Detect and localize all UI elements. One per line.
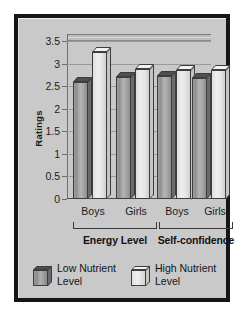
bar-selfconfidence-boys-low [157,71,172,199]
legend-item-high-nutrient: High Nutrient Level [131,262,229,294]
bar-energy-girls-high [135,64,150,199]
bracket-energy-level [73,222,157,229]
bar-front-face [135,69,150,199]
bar-front-face [92,52,107,199]
ytick-label-2: 2 [54,103,60,115]
bar-selfconfidence-girls-high [211,65,226,199]
y-axis-title: Ratings [33,94,44,164]
bar-front-face [157,76,172,199]
ytick-2 [62,109,67,110]
bar-side-face [150,64,154,199]
ytick-2.5 [62,86,67,87]
plot-left-wall-3d [67,34,68,199]
ytick-0 [62,199,67,200]
legend-item-low-nutrient: Low Nutrient Level [33,262,129,294]
bar-front-face [73,82,88,199]
xlabel-selfconfidence-boys: Boys [165,205,188,217]
legend-label-high-nutrient: High Nutrient Level [155,262,216,287]
cube-front-face [131,270,146,286]
ytick-label-0: 0 [54,193,60,205]
bar-side-face [226,65,230,199]
ytick-label-1.5: 1.5 [45,125,60,137]
ytick-label-0.5: 0.5 [45,170,60,182]
ytick-label-1: 1 [54,148,60,160]
light-cube-icon [131,266,148,283]
xlabel-selfconfidence-girls: Girls [204,205,226,217]
bar-energy-boys-high [92,47,107,199]
legend-label-high-line1: High Nutrient [155,262,216,275]
chart-legend: Low Nutrient Level High Nutrient Level [27,262,227,296]
ytick-1.5 [62,131,67,132]
bar-front-face [176,70,191,200]
ytick-label-2.5: 2.5 [45,80,60,92]
chart-frame: Ratings 3.5 3 2.5 [14,14,230,302]
ytick-3.5 [62,41,67,42]
gridline-3.5 [67,41,211,42]
bar-energy-boys-low [73,77,88,199]
legend-label-low-line1: Low Nutrient [57,262,116,275]
grouplabel-self-confidence: Self-confidence [158,234,235,246]
cube-front-face [33,270,48,286]
bracket-self-confidence [159,222,233,229]
legend-label-low-line2: Level [57,275,116,288]
legend-label-low-nutrient: Low Nutrient Level [57,262,116,287]
ytick-label-3: 3 [54,58,60,70]
cube-side-face [146,266,150,286]
bar-energy-girls-low [116,72,131,199]
legend-label-high-line2: Level [155,275,216,288]
plot-top-face-3d [67,34,211,41]
bar-side-face [107,48,111,199]
chart-frame-inner: Ratings 3.5 3 2.5 [18,18,226,298]
ytick-1 [62,154,67,155]
bar-front-face [211,70,226,199]
grouped-bar-chart: Ratings 3.5 3 2.5 [19,19,227,299]
cube-side-face [48,266,52,286]
figure-canvas: Ratings 3.5 3 2.5 [0,0,247,319]
bar-front-face [192,78,207,199]
xlabel-energy-girls: Girls [125,205,147,217]
plot-area: 3.5 3 2.5 2 1.5 1 [67,41,211,199]
bar-selfconfidence-boys-high [176,65,191,200]
bar-front-face [116,77,131,199]
ytick-label-3.5: 3.5 [45,35,60,47]
dark-cube-icon [33,266,50,283]
bar-selfconfidence-girls-low [192,73,207,199]
ytick-3 [62,64,67,65]
grouplabel-energy-level: Energy Level [83,234,147,246]
xlabel-energy-boys: Boys [81,205,104,217]
ytick-0.5 [62,176,67,177]
